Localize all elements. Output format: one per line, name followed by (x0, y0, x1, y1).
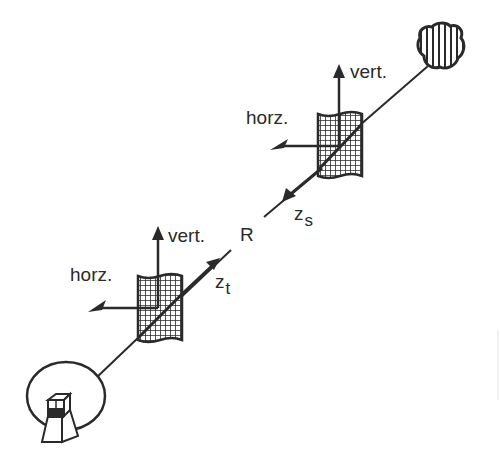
scatterer-z-arrow (282, 168, 322, 202)
polarization-diagram: vert. horz. zs R vert. horz. zt (0, 0, 500, 471)
scatterer-horizontal-label: horz. (246, 108, 288, 127)
radar-dish-icon (27, 362, 105, 442)
scatterer-z-label-sub: s (305, 211, 314, 230)
transmitter-z-label-sub: t (226, 279, 231, 298)
transmitter-vertical-label: vert. (168, 226, 205, 245)
transmitter-horizontal-label: horz. (70, 265, 112, 284)
transmitter-z-label: zt (215, 272, 230, 291)
scatterer-vertical-label: vert. (350, 62, 387, 81)
scatterer-z-label-main: z (294, 203, 304, 224)
scatterer-cloud-icon (418, 23, 464, 68)
scatterer-z-label: zs (294, 204, 313, 223)
transmitter-z-label-main: z (215, 271, 225, 292)
scan-edge-artifact (497, 330, 499, 400)
range-label: R (240, 225, 254, 244)
